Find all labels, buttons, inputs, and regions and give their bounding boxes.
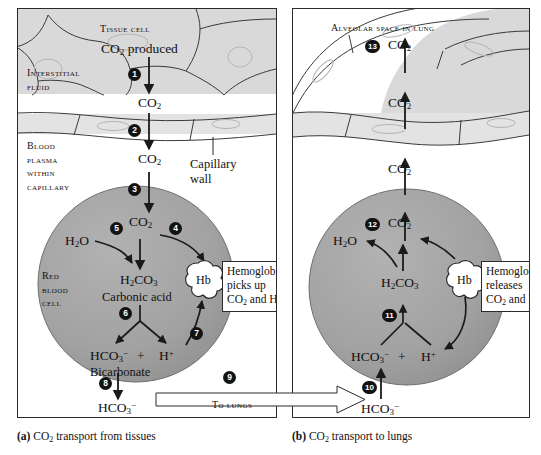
panel-b-artwork	[293, 9, 529, 417]
callout-hemoglobin-releases: Hemoglobin releases CO2 and H+	[481, 261, 530, 312]
callout-line-2: picks up	[227, 279, 266, 291]
label-hb-b: Hb	[457, 273, 472, 288]
label-co2-rbc-b: CO2	[388, 215, 411, 232]
step-8-bullet: 8	[99, 377, 112, 390]
caption-a-label: (a)	[17, 430, 30, 442]
callout-line-2: releases	[486, 279, 522, 291]
label-plus-b: +	[398, 349, 406, 365]
label-co2-plasma: CO2	[138, 151, 161, 168]
label-co2-produced: CO2 produced	[101, 41, 178, 58]
label-h2o-b: H2O	[333, 233, 357, 250]
callout-line-3: CO2 and H+	[227, 293, 277, 305]
label-h-ion: H+	[159, 348, 174, 364]
callout-line-3: CO2 and H+	[486, 293, 530, 305]
label-red-blood-cell: Redbloodcell	[42, 269, 102, 310]
label-alveolar-space-in-lung: Alveolar space in lung	[331, 22, 435, 34]
label-co2-plasma-b: CO2	[388, 161, 411, 178]
label-h2co3-b: H2CO3	[381, 275, 419, 292]
step-13-bullet: 13	[365, 40, 380, 53]
caption-a-text: CO2 transport from tissues	[33, 430, 156, 442]
label-carbonic-acid: Carbonic acid	[102, 290, 172, 305]
label-hco3-ion-b: HCO3−	[351, 349, 389, 366]
label-h2co3: H2CO3	[120, 272, 158, 289]
label-capillary-wall: Capillarywall	[190, 157, 260, 187]
label-to-lungs: To lungs	[212, 399, 252, 411]
label-co2-wall-b: CO2	[388, 95, 411, 112]
step-7-bullet: 7	[190, 327, 203, 340]
label-h2o: H2O	[65, 233, 89, 250]
step-1-bullet: 1	[128, 68, 141, 81]
caption-b-label: (b)	[292, 430, 306, 442]
label-plus-a: +	[137, 348, 145, 364]
label-tissue-cell: Tissue cell	[100, 23, 150, 35]
caption-panel-b: (b) CO2 transport to lungs	[292, 430, 412, 444]
step-4-bullet: 4	[169, 222, 182, 235]
label-h-ion-b: H+	[421, 349, 436, 365]
figure-canvas: Tissue cell CO2 produced 1 CO2 Interstit…	[0, 0, 541, 455]
to-lungs-connector-arrow	[155, 385, 367, 415]
caption-panel-a: (a) CO2 transport from tissues	[17, 430, 156, 444]
step-12-bullet: 12	[365, 218, 380, 231]
step-6-bullet: 6	[119, 307, 132, 320]
label-co2-interstitial: CO2	[138, 95, 161, 112]
step-9-bullet: 9	[223, 371, 236, 384]
step-3-bullet: 3	[128, 183, 141, 196]
label-hco3-ion: HCO3−	[90, 348, 128, 365]
panel-b-co2-transport-to-lungs: Alveolar space in lung 13 CO2 CO2 CO2 12…	[292, 8, 530, 418]
step-11-bullet: 11	[382, 309, 397, 322]
callout-line-1: Hemoglobin	[227, 265, 277, 277]
panel-a-co2-transport-from-tissues: Tissue cell CO2 produced 1 CO2 Interstit…	[17, 8, 277, 418]
label-co2-rbc: CO2	[129, 214, 152, 231]
label-hco3-plasma: HCO3−	[98, 400, 136, 417]
step-5-bullet: 5	[110, 222, 123, 235]
callout-hemoglobin-picks-up: Hemoglobin picks up CO2 and H+	[222, 261, 277, 312]
label-interstitial-fluid: Interstitialfluid	[27, 66, 103, 93]
caption-b-text: CO2 transport to lungs	[309, 430, 412, 442]
callout-line-1: Hemoglobin	[486, 265, 530, 277]
step-2-bullet: 2	[128, 124, 141, 137]
label-hb-a: Hb	[196, 273, 211, 288]
label-bicarbonate: Bicarbonate	[90, 365, 150, 380]
label-co2-alveolar: CO2	[388, 37, 411, 54]
label-blood-plasma-within-capillary: Bloodplasmawithincapillary	[27, 139, 109, 193]
